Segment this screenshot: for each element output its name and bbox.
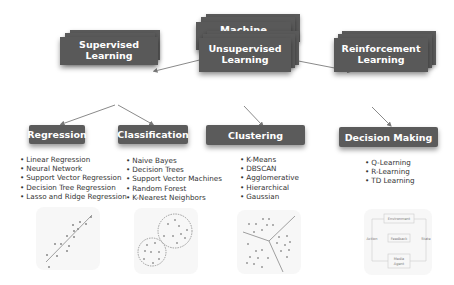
category-label-wrap: Unsupervised Learning xyxy=(199,38,291,72)
classification-clusters-icon xyxy=(134,208,198,274)
list-item: Support Vector Machines xyxy=(126,174,222,183)
list-item: R-Learning xyxy=(365,167,415,176)
list-item: Support Vector Regression xyxy=(20,173,127,182)
category-label: Supervised Learning xyxy=(60,37,158,65)
rl-action: Action xyxy=(367,237,378,241)
task-clustering: Clustering xyxy=(206,125,305,145)
scatter-regression-icon xyxy=(36,207,100,270)
category-label-wrap: Reinforcement Learning xyxy=(334,38,428,72)
category-label-line2: Learning xyxy=(221,55,268,66)
clustering-list: K-Means DBSCAN Agglomerative Hierarchica… xyxy=(240,155,299,201)
rl-feedback: Feedback xyxy=(391,237,409,241)
list-item: Decision Trees xyxy=(126,165,222,174)
list-item: Naive Bayes xyxy=(126,156,222,165)
rl-agent-line1: Media xyxy=(394,257,405,261)
list-item: Decision Tree Regression xyxy=(20,183,127,192)
task-decision-making: Decision Making xyxy=(339,127,438,147)
list-item: Random Forest xyxy=(126,184,222,193)
list-item: Linear Regression xyxy=(20,155,127,164)
clustering-voronoi-icon xyxy=(237,210,301,274)
decision-making-list: Q-Learning R-Learning TD Learning xyxy=(365,158,415,186)
regression-illustration xyxy=(36,207,100,270)
list-item: Q-Learning xyxy=(365,158,415,167)
rl-environment: Environment xyxy=(388,217,411,221)
list-item: Agglomerative xyxy=(240,173,299,182)
classification-list: Naive Bayes Decision Trees Support Vecto… xyxy=(126,156,222,202)
category-label-line2: Learning xyxy=(357,55,404,66)
list-item: K-Nearest Neighbors xyxy=(126,193,222,202)
category-unsupervised: Unsupervised Learning xyxy=(199,31,299,73)
category-supervised: Supervised Learning xyxy=(60,30,160,68)
task-regression: Regression xyxy=(29,125,85,144)
category-reinforcement: Reinforcement Learning xyxy=(334,31,436,73)
list-item: Hierarchical xyxy=(240,183,299,192)
rl-illustration: Environment Feedback Action State Media … xyxy=(364,209,432,275)
regression-list: Linear Regression Neural Network Support… xyxy=(20,155,127,201)
list-item: Neural Network xyxy=(20,164,127,173)
rl-loop-diagram: Environment Feedback Action State Media … xyxy=(364,209,432,275)
rl-agent-line2: Agent xyxy=(394,262,405,266)
list-item: Lasso and Ridge Regression xyxy=(20,192,127,201)
list-item: DBSCAN xyxy=(240,164,299,173)
list-item: K-Means xyxy=(240,155,299,164)
rl-state: State xyxy=(421,237,430,241)
clustering-illustration xyxy=(237,210,301,274)
classification-illustration xyxy=(134,208,198,274)
list-item: Gaussian xyxy=(240,192,299,201)
task-classification: Classification xyxy=(118,125,188,144)
list-item: TD Learning xyxy=(365,176,415,185)
